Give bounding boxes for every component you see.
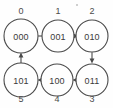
edge-010-to-011 — [90, 52, 95, 63]
node-101-index: 5 — [18, 94, 23, 104]
gray-code-state-diagram: 000 0 001 1 010 2 011 3 100 4 101 5 — [0, 0, 113, 108]
node-100-code: 100 — [49, 76, 65, 86]
scan-speck — [76, 4, 78, 6]
node-010-index: 2 — [89, 6, 94, 16]
node-001-code: 001 — [50, 32, 66, 42]
node-100[interactable]: 100 — [41, 64, 73, 96]
node-001-index: 1 — [55, 6, 60, 16]
node-010-code: 010 — [84, 32, 100, 42]
node-000[interactable]: 000 — [4, 19, 38, 53]
node-000-code: 000 — [13, 32, 29, 42]
node-011-code: 011 — [85, 76, 100, 86]
node-000-index: 0 — [18, 6, 23, 16]
node-100-index: 4 — [54, 94, 59, 104]
node-001[interactable]: 001 — [42, 20, 74, 52]
node-011[interactable]: 011 — [76, 64, 108, 96]
node-101[interactable]: 101 — [4, 63, 38, 97]
node-010[interactable]: 010 — [76, 20, 108, 52]
node-011-index: 3 — [89, 94, 94, 104]
node-101-code: 101 — [13, 76, 29, 86]
edge-101-to-000 — [19, 53, 24, 64]
graph-canvas: 000 0 001 1 010 2 011 3 100 4 101 5 — [0, 0, 113, 108]
